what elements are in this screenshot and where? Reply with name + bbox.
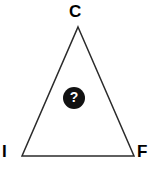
vertex-label-f: F	[137, 143, 147, 160]
vertex-label-c: C	[69, 3, 81, 20]
question-mark-icon: ?	[70, 90, 79, 104]
triangle-svg	[0, 0, 156, 171]
figure-canvas: C I F ?	[0, 0, 156, 171]
vertex-label-i: I	[2, 143, 7, 160]
question-mark-badge: ?	[63, 87, 85, 109]
